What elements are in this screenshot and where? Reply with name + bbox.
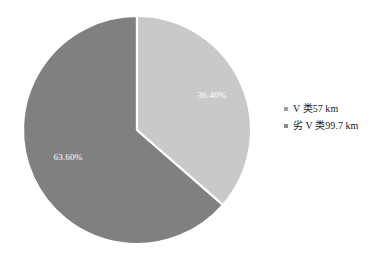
pie-chart: 36.40% 63.60% V 类57 km 劣 V 类99.7 km xyxy=(0,0,385,255)
chart-legend: V 类57 km 劣 V 类99.7 km xyxy=(284,100,385,134)
legend-item-v[interactable]: V 类57 km xyxy=(284,100,385,117)
legend-label-liev: 劣 V 类99.7 km xyxy=(293,120,358,131)
pie-svg: 36.40% 63.60% xyxy=(0,0,262,255)
slice-label-liev: 63.60% xyxy=(54,152,83,162)
legend-swatch-icon-liev xyxy=(284,124,288,128)
pie-plot-area: 36.40% 63.60% xyxy=(0,0,262,255)
slice-label-v: 36.40% xyxy=(198,90,227,100)
legend-swatch-icon-v xyxy=(284,107,288,111)
legend-item-liev[interactable]: 劣 V 类99.7 km xyxy=(284,117,385,134)
legend-label-v: V 类57 km xyxy=(293,103,338,114)
